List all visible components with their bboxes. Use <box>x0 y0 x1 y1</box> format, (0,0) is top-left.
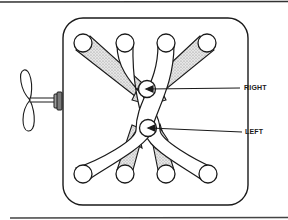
top-port-4 <box>198 34 216 52</box>
label-left: LEFT <box>245 128 263 135</box>
propeller-blade-bottom <box>23 100 34 131</box>
top-rule <box>0 2 288 3</box>
propeller-blade-top <box>21 70 32 100</box>
diagram-canvas <box>0 0 288 220</box>
bottom-rule <box>10 218 288 219</box>
top-port-2 <box>116 34 134 52</box>
drive-pulley <box>54 92 62 110</box>
top-port-1 <box>74 34 92 52</box>
label-right: RIGHT <box>244 84 267 91</box>
bottom-port-1 <box>74 165 92 183</box>
propeller-shaft <box>30 98 55 102</box>
bottom-port-2 <box>116 165 134 183</box>
top-port-3 <box>157 34 175 52</box>
bottom-port-4 <box>199 165 217 183</box>
bottom-port-3 <box>157 165 175 183</box>
